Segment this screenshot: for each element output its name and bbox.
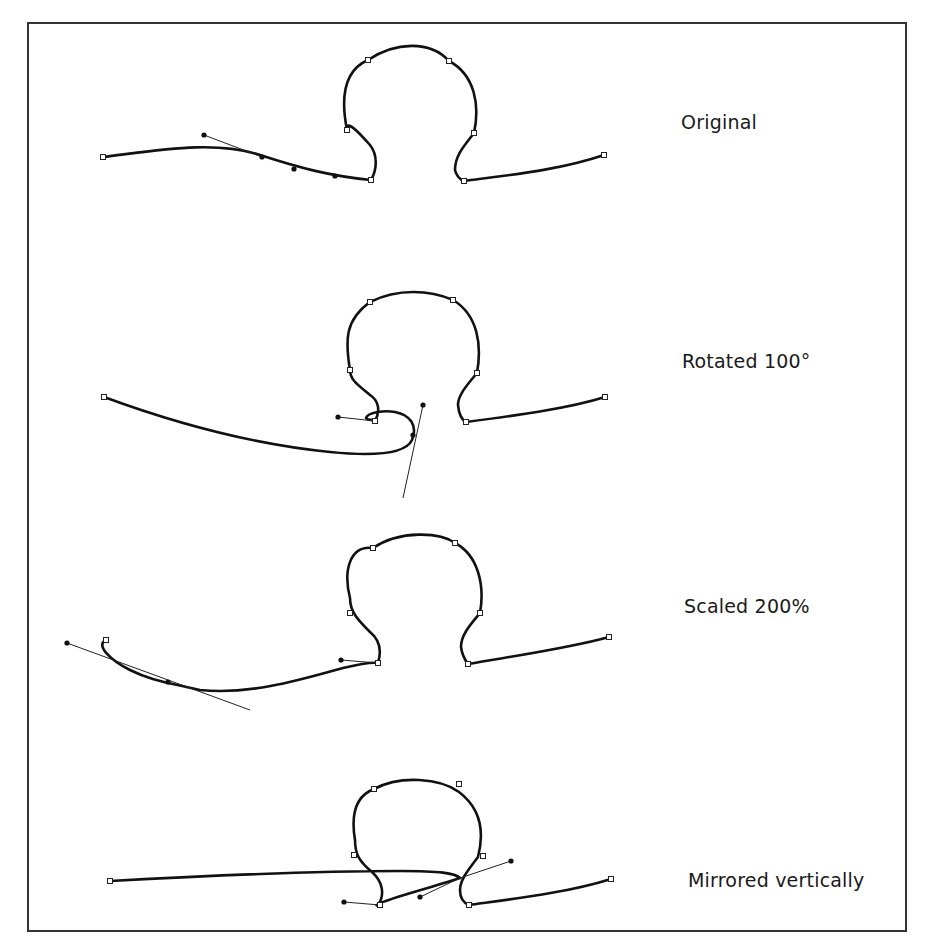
control-handle-line — [204, 135, 262, 157]
control-point-icon — [335, 414, 340, 419]
anchor-point-icon — [104, 638, 109, 643]
control-point-icon — [338, 657, 343, 662]
curve-point-icon — [165, 679, 170, 684]
curve-point-icon — [259, 154, 264, 159]
label-mirrored: Mirrored vertically — [688, 869, 865, 891]
anchor-point-icon — [352, 853, 357, 858]
anchor-point-icon — [609, 877, 614, 882]
control-handle-line — [67, 643, 250, 710]
curve-point-icon — [332, 173, 337, 178]
control-point-icon — [420, 402, 425, 407]
anchor-point-icon — [371, 546, 376, 551]
bezier-transform-diagram — [0, 0, 927, 952]
anchor-point-icon — [475, 371, 480, 376]
anchor-point-icon — [457, 782, 462, 787]
panel-mirrored — [108, 780, 614, 908]
anchor-point-icon — [453, 541, 458, 546]
anchor-point-icon — [451, 298, 456, 303]
anchor-point-icon — [345, 128, 350, 133]
bezier-curve — [102, 535, 609, 691]
anchor-point-icon — [466, 662, 471, 667]
label-scaled: Scaled 200% — [684, 595, 810, 617]
control-point-icon — [201, 132, 206, 137]
control-point-icon — [341, 899, 346, 904]
anchor-point-icon — [348, 611, 353, 616]
control-handle-line — [341, 660, 378, 663]
anchor-point-icon — [481, 854, 486, 859]
anchor-point-icon — [373, 419, 378, 424]
anchor-point-icon — [368, 300, 373, 305]
bezier-curve — [104, 292, 605, 454]
anchor-point-icon — [366, 58, 371, 63]
control-point-icon — [417, 894, 422, 899]
anchor-point-icon — [101, 155, 106, 160]
anchor-point-icon — [372, 787, 377, 792]
anchor-point-icon — [472, 131, 477, 136]
anchor-point-icon — [464, 420, 469, 425]
label-rotated: Rotated 100° — [682, 350, 810, 372]
panel-scaled — [64, 535, 611, 710]
anchor-point-icon — [369, 178, 374, 183]
control-point-icon — [508, 858, 513, 863]
anchor-point-icon — [376, 661, 381, 666]
anchor-point-icon — [602, 153, 607, 158]
anchor-point-icon — [108, 879, 113, 884]
control-handle-line — [344, 902, 380, 905]
anchor-point-icon — [348, 368, 353, 373]
control-handle-line — [403, 405, 423, 498]
panel-rotated — [102, 292, 608, 498]
anchor-point-icon — [462, 179, 467, 184]
control-point-icon — [64, 640, 69, 645]
bezier-curve — [103, 46, 604, 181]
anchor-point-icon — [378, 903, 383, 908]
anchor-point-icon — [102, 395, 107, 400]
bezier-curve — [110, 780, 611, 906]
anchor-point-icon — [478, 611, 483, 616]
label-original: Original — [681, 111, 757, 133]
anchor-point-icon — [467, 903, 472, 908]
anchor-point-icon — [603, 395, 608, 400]
curve-point-icon — [291, 166, 296, 171]
anchor-point-icon — [447, 59, 452, 64]
curve-point-icon — [410, 432, 415, 437]
anchor-point-icon — [607, 635, 612, 640]
panel-original — [101, 46, 607, 184]
